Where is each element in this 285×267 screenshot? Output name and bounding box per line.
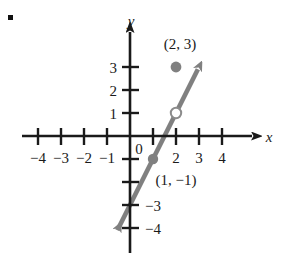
annotation-point-2-3: (2, 3) bbox=[164, 36, 197, 53]
x-tick-label-4: 4 bbox=[218, 150, 226, 166]
y-tick-label-2: 2 bbox=[110, 83, 118, 99]
annotation-point-1--1: (1, −1) bbox=[156, 172, 197, 189]
x-tick-label--3: −3 bbox=[53, 150, 69, 166]
graph-figure: −4 −3 −2 −1 2 3 4 3 2 1 −3 −4 0 y x (2, … bbox=[0, 0, 285, 267]
x-tick-label-3: 3 bbox=[195, 150, 203, 166]
data-point-open-2-1 bbox=[171, 108, 181, 118]
bullet-marker-icon bbox=[8, 15, 13, 20]
coordinate-plane: −4 −3 −2 −1 2 3 4 3 2 1 −3 −4 0 y x (2, … bbox=[0, 0, 285, 267]
y-tick-label--3: −3 bbox=[145, 198, 161, 214]
y-tick-label-3: 3 bbox=[110, 60, 118, 76]
y-axis-label: y bbox=[126, 13, 135, 29]
x-tick-label-2: 2 bbox=[172, 150, 180, 166]
y-tick-label-1: 1 bbox=[110, 106, 118, 122]
x-tick-label--1: −1 bbox=[99, 150, 115, 166]
x-axis-label: x bbox=[265, 129, 273, 145]
data-point-filled-2-3 bbox=[171, 62, 182, 73]
data-point-filled-1--1 bbox=[148, 154, 158, 164]
y-tick-label--4: −4 bbox=[145, 221, 161, 237]
x-tick-label--2: −2 bbox=[76, 150, 92, 166]
x-tick-label--4: −4 bbox=[30, 150, 46, 166]
origin-label: 0 bbox=[135, 141, 143, 157]
